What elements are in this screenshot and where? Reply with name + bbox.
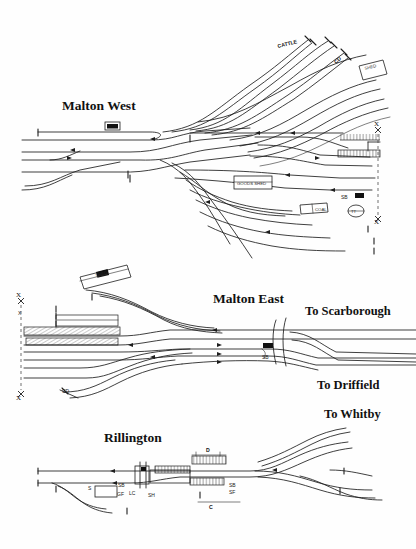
me-signal-box: SB <box>262 343 273 360</box>
me-sb-label: SB <box>262 354 269 360</box>
mw-main-running-lines <box>22 128 258 186</box>
me-north-curves <box>86 290 222 333</box>
me-shed-box <box>80 265 131 289</box>
ri-east-throat <box>258 428 382 500</box>
me-cd-label: CD <box>62 388 70 394</box>
me-buffers-nw <box>56 294 92 327</box>
ri-gf-label: GF <box>117 491 124 497</box>
mw-yard-through-lines <box>175 133 375 190</box>
malton-east-title: Malton East <box>213 291 284 306</box>
railway-track-diagram: GOODS SHED COAL TT SB <box>0 0 416 549</box>
mw-x-bottom-label: X <box>374 218 379 226</box>
me-bh-label: X <box>18 310 22 316</box>
mw-x-top-label: X <box>374 120 379 128</box>
mw-upper-buffer-stops <box>305 36 351 60</box>
diagram-page: GOODS SHED COAL TT SB <box>0 0 416 549</box>
mw-turntable: TT <box>348 205 364 217</box>
malton-west-section: GOODS SHED COAL TT SB <box>22 36 390 258</box>
mw-cattle-label: CATTLE <box>277 38 298 49</box>
me-x-top-label: X <box>16 291 21 299</box>
me-x-bottom-label: X <box>16 394 21 402</box>
mw-turntable-label: TT <box>351 209 357 214</box>
mw-boundary-markers <box>375 127 381 222</box>
ri-c-label: C <box>209 504 213 510</box>
mw-cattle-dock-sidings <box>163 40 348 135</box>
rillington-section: S SB GF LC SH D SB SF C <box>38 428 382 514</box>
ri-centre-platforms <box>135 456 226 485</box>
me-bridge-lines <box>273 318 286 366</box>
route-to-driffield: To Driffield <box>317 378 379 392</box>
ri-d-label: D <box>206 447 210 453</box>
me-platforms <box>24 315 120 345</box>
mw-west-buffers <box>38 129 161 139</box>
ri-sb-east-label: SB <box>229 482 236 488</box>
me-route-divergence <box>290 332 416 362</box>
mw-coal-box: COAL <box>300 203 328 214</box>
malton-west-title: Malton West <box>62 98 136 113</box>
mw-lower-west-curve <box>22 151 80 190</box>
rillington-title: Rillington <box>104 430 162 445</box>
ri-sf-label: SF <box>229 489 235 495</box>
mw-sb-label: SB <box>341 194 348 200</box>
ri-sb-west-label: SB <box>118 482 125 488</box>
mw-goods-shed-box: GOODS SHED <box>234 176 272 189</box>
ri-s-label: S <box>88 485 92 491</box>
mw-south-buffers <box>128 135 374 254</box>
mw-coal-label: COAL <box>315 207 327 212</box>
ri-station-building <box>95 486 117 497</box>
route-to-scarborough: To Scarborough <box>305 304 391 318</box>
ri-lc-label: LC <box>129 490 136 496</box>
mw-signal-box-marks: SB <box>341 193 364 200</box>
ri-sh-label: SH <box>148 492 155 498</box>
mw-goods-shed-label: GOODS SHED <box>237 181 266 186</box>
mw-platform-edges <box>338 134 380 157</box>
mw-ms-building <box>105 122 120 130</box>
route-to-whitby: To Whitby <box>324 407 381 421</box>
